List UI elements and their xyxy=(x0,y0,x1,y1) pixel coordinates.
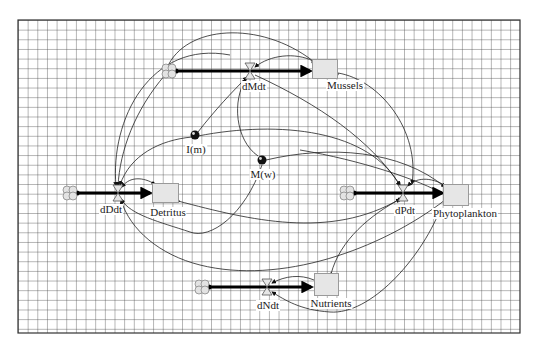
cloud-icon xyxy=(63,186,77,200)
converter-icon xyxy=(191,131,200,140)
flow-label-dDdt: dDdt xyxy=(99,204,123,215)
cloud-icon xyxy=(340,186,354,200)
stock-phytoplankton[interactable] xyxy=(443,184,469,206)
flow-label-dNdt: dNdt xyxy=(256,300,280,311)
cloud-icon xyxy=(162,64,176,78)
stock-label-nutrients: Nutrients xyxy=(310,298,353,309)
flow-label-dMdt: dMdt xyxy=(241,81,267,92)
stock-label-detritus: Detritus xyxy=(149,207,186,218)
flow-label-dPdt: dPdt xyxy=(394,205,416,216)
converter-label-Mw: M(w) xyxy=(249,169,276,180)
stock-label-mussels: Mussels xyxy=(326,80,364,91)
converter-icon xyxy=(258,156,267,165)
stock-mussels[interactable] xyxy=(312,59,338,79)
stock-nutrients[interactable] xyxy=(314,273,339,296)
stock-detritus[interactable] xyxy=(152,183,179,203)
cloud-icon xyxy=(195,280,209,294)
converter-label-Im: I(m) xyxy=(185,144,207,155)
stock-label-phytoplankton: Phytoplankton xyxy=(432,208,498,219)
